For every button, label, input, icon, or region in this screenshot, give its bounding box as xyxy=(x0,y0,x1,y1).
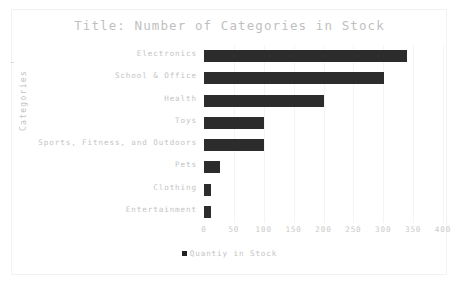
bar-row: Pets xyxy=(204,156,443,178)
category-label: Clothing xyxy=(153,183,197,192)
bar xyxy=(204,206,211,218)
x-tick-label: 150 xyxy=(285,225,301,234)
x-tick-label: 400 xyxy=(435,225,451,234)
bar xyxy=(204,184,211,196)
x-tick-label: 350 xyxy=(405,225,421,234)
gridline xyxy=(443,45,444,223)
x-tick-label: 200 xyxy=(315,225,331,234)
bar-row: Entertainment xyxy=(204,201,443,223)
category-label: Entertainment xyxy=(126,205,197,214)
category-label: Sports, Fitness, and Outdoors xyxy=(38,138,197,147)
bar-row: Clothing xyxy=(204,179,443,201)
x-tick-label: 300 xyxy=(375,225,391,234)
x-tick-label: 250 xyxy=(345,225,361,234)
y-axis-label: Categories xyxy=(19,66,28,136)
bar xyxy=(204,161,220,173)
category-label: Toys xyxy=(175,116,197,125)
bar xyxy=(204,72,384,84)
bar-row: School & Office xyxy=(204,67,443,89)
bar xyxy=(204,50,407,62)
category-label: Electronics xyxy=(137,49,197,58)
x-tick-label: 0 xyxy=(201,225,206,234)
x-tick-label: 100 xyxy=(256,225,272,234)
legend-swatch-icon xyxy=(182,251,187,256)
legend-item-label: Quantiy in Stock xyxy=(190,249,278,258)
bars-layer: ElectronicsSchool & OfficeHealthToysSpor… xyxy=(204,45,443,223)
chart-legend: Quantiy in Stock xyxy=(0,249,459,258)
category-label: Health xyxy=(164,94,197,103)
category-label: Pets xyxy=(175,160,197,169)
bar-row: Electronics xyxy=(204,45,443,67)
bar-row: Health xyxy=(204,90,443,112)
bar xyxy=(204,95,324,107)
chart-title: Title: Number of Categories in Stock xyxy=(0,18,459,33)
bar-chart-figure: Title: Number of Categories in Stock Cat… xyxy=(0,0,459,286)
legend-item-quantity: Quantiy in Stock xyxy=(182,249,278,258)
bar xyxy=(204,139,264,151)
bar-row: Toys xyxy=(204,112,443,134)
x-tick-label: 50 xyxy=(228,225,239,234)
bar-row: Sports, Fitness, and Outdoors xyxy=(204,134,443,156)
plot-area: ElectronicsSchool & OfficeHealthToysSpor… xyxy=(204,45,443,223)
x-axis-ticks: 050100150200250300350400 xyxy=(204,225,443,237)
left-edge-mark xyxy=(11,62,14,63)
bar xyxy=(204,117,264,129)
category-label: School & Office xyxy=(115,71,197,80)
